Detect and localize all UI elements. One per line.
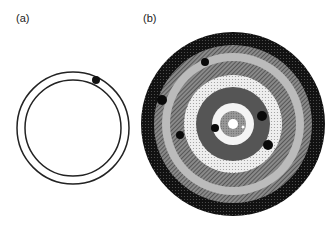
particle <box>92 76 100 84</box>
panel-b-concentric-rings <box>141 32 325 216</box>
particle <box>176 131 184 139</box>
panel-a-annulus <box>17 72 129 184</box>
inner-circle <box>25 80 121 176</box>
particle <box>263 140 273 150</box>
particle <box>242 126 245 129</box>
particle <box>257 111 267 121</box>
outer-circle <box>17 72 129 184</box>
ring-hole <box>228 119 238 129</box>
figure-canvas <box>0 0 336 230</box>
particle <box>211 124 219 132</box>
particle <box>157 95 167 105</box>
particle <box>201 58 209 66</box>
